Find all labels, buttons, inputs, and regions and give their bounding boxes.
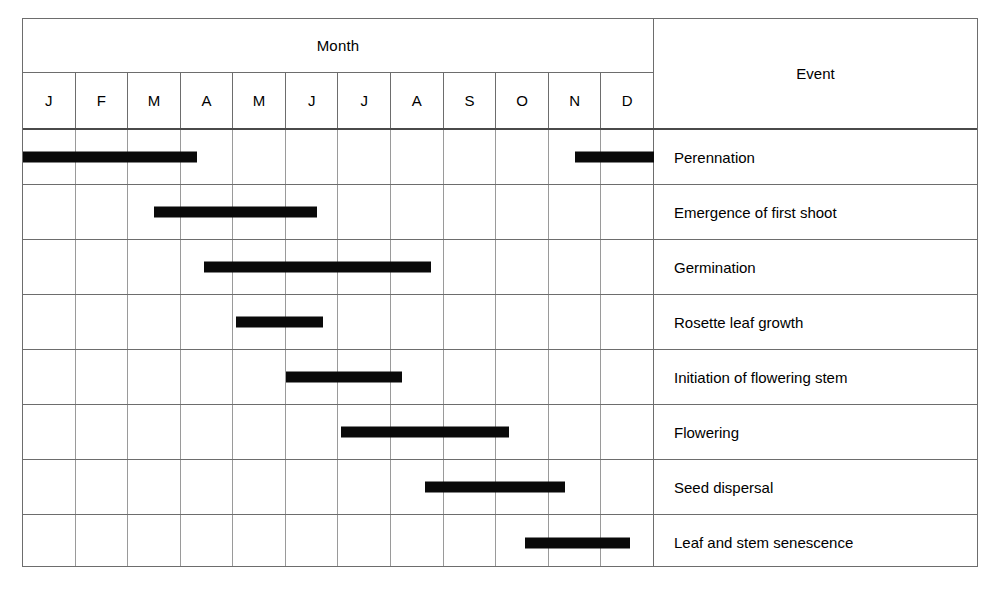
month-header-nov: N [549, 73, 602, 128]
gantt-row-bars [23, 350, 654, 404]
month-header-feb: F [76, 73, 129, 128]
gantt-row-bars [23, 405, 654, 459]
table-body: PerennationEmergence of first shootGermi… [23, 128, 977, 566]
gantt-row: Emergence of first shoot [23, 185, 977, 240]
month-header-sep: S [444, 73, 497, 128]
gantt-row-bars [23, 130, 654, 184]
month-header-aug: A [391, 73, 444, 128]
gantt-row-event-label: Flowering [654, 405, 977, 459]
gantt-row-event-label: Leaf and stem senescence [654, 515, 977, 570]
gantt-bar [425, 482, 564, 493]
gantt-row: Flowering [23, 405, 977, 460]
month-header-jul: J [338, 73, 391, 128]
gantt-row-bars [23, 295, 654, 349]
gantt-row-list: PerennationEmergence of first shootGermi… [23, 130, 977, 566]
gantt-bar [525, 537, 630, 548]
gantt-bar [23, 152, 197, 163]
gantt-row-event-label: Perennation [654, 130, 977, 184]
gantt-bar [575, 152, 654, 163]
gantt-row-event-label: Rosette leaf growth [654, 295, 977, 349]
gantt-bar [236, 317, 323, 328]
gantt-bar [204, 262, 430, 273]
table-header: Month J F M A M J J A S O N D Event [23, 19, 977, 128]
gantt-bar [341, 427, 509, 438]
gantt-row: Germination [23, 240, 977, 295]
month-header-dec: D [601, 73, 653, 128]
gantt-bar [154, 207, 317, 218]
gantt-row-bars [23, 460, 654, 514]
gantt-bar [286, 372, 402, 383]
gantt-row: Perennation [23, 130, 977, 185]
month-group-header-label: Month [23, 19, 653, 73]
month-letter-row: J F M A M J J A S O N D [23, 73, 653, 128]
month-header-jan: J [23, 73, 76, 128]
month-header-oct: O [496, 73, 549, 128]
gantt-row-event-label: Initiation of flowering stem [654, 350, 977, 404]
gantt-row-event-label: Germination [654, 240, 977, 294]
gantt-chart-table: Month J F M A M J J A S O N D Event [22, 18, 978, 567]
month-header-jun: J [286, 73, 339, 128]
month-header-mar: M [128, 73, 181, 128]
gantt-row: Rosette leaf growth [23, 295, 977, 350]
gantt-row: Leaf and stem senescence [23, 515, 977, 570]
month-header-apr: A [181, 73, 234, 128]
month-header-may: M [233, 73, 286, 128]
gantt-row-bars [23, 515, 654, 570]
gantt-row-event-label: Emergence of first shoot [654, 185, 977, 239]
gantt-row-bars [23, 240, 654, 294]
gantt-row-bars [23, 185, 654, 239]
gantt-row: Seed dispersal [23, 460, 977, 515]
event-column-header-label: Event [654, 19, 977, 128]
gantt-row: Initiation of flowering stem [23, 350, 977, 405]
month-column-group: Month J F M A M J J A S O N D [23, 19, 654, 128]
gantt-row-event-label: Seed dispersal [654, 460, 977, 514]
